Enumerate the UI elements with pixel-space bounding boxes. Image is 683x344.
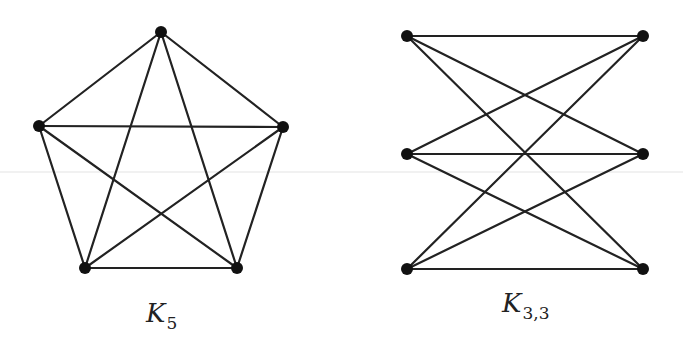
vertex-top — [155, 26, 167, 38]
graph-k33 — [401, 30, 649, 275]
edge-left-right — [39, 126, 283, 127]
graph-label-k5: K5 — [146, 300, 177, 326]
label-k33-subscript: 3,3 — [522, 303, 549, 323]
vertex-a3 — [401, 263, 413, 275]
vertex-right — [277, 121, 289, 133]
label-k5-subscript: 5 — [166, 313, 177, 333]
vertex-b3 — [637, 263, 649, 275]
graph-k5 — [33, 26, 289, 274]
vertex-left — [33, 120, 45, 132]
vertex-b2 — [637, 148, 649, 160]
edge-right-bottom-left — [85, 127, 283, 268]
edge-top-right — [161, 32, 283, 127]
vertex-a2 — [401, 148, 413, 160]
label-k33-main: K — [502, 288, 521, 318]
edge-left-bottom-right — [39, 126, 237, 268]
label-k5-main: K — [146, 298, 165, 328]
edge-top-bottom-left — [85, 32, 161, 268]
edge-top-left — [39, 32, 161, 126]
vertex-b1 — [637, 30, 649, 42]
edge-left-bottom-left — [39, 126, 85, 268]
edge-top-bottom-right — [161, 32, 237, 268]
vertex-bottom-right — [231, 262, 243, 274]
graph-figure — [0, 0, 683, 344]
vertex-a1 — [401, 30, 413, 42]
edge-right-bottom-right — [237, 127, 283, 268]
graph-label-k33: K3,3 — [502, 290, 549, 316]
vertex-bottom-left — [79, 262, 91, 274]
